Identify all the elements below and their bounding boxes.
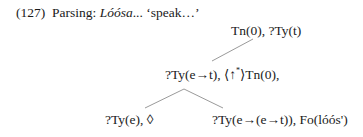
tree-middle-node: ?Ty(e→t), ⟨↑*⟩Tn(0), bbox=[165, 68, 279, 82]
middle-node-part2: ⟩Tn(0), bbox=[240, 67, 279, 82]
kleene-star: * bbox=[236, 66, 240, 75]
edge-middle-left bbox=[145, 89, 184, 108]
edge-root-middle bbox=[212, 39, 253, 61]
tree-left-leaf: ?Ty(e), ◊ bbox=[105, 113, 153, 127]
tree-root-node: Tn(0), ?Ty(t) bbox=[231, 24, 301, 38]
tree-right-leaf: ?Ty(e→(e→t)), Fo(lóós') bbox=[212, 113, 348, 127]
middle-node-part1: ?Ty(e→t), ⟨↑ bbox=[165, 67, 236, 82]
edge-middle-right bbox=[184, 89, 223, 108]
